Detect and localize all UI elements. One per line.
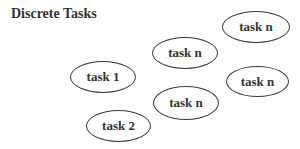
task-label: task n bbox=[168, 45, 202, 61]
task-label: task n bbox=[239, 19, 273, 35]
task-node: task 1 bbox=[70, 61, 136, 93]
task-node: task 2 bbox=[86, 110, 151, 142]
task-label: task n bbox=[169, 95, 203, 111]
task-label: task 2 bbox=[102, 118, 135, 134]
task-node: task n bbox=[153, 86, 219, 120]
diagram-title: Discrete Tasks bbox=[11, 6, 97, 22]
task-label: task n bbox=[241, 74, 275, 90]
task-node: task n bbox=[222, 11, 290, 43]
task-node: task n bbox=[226, 66, 289, 97]
task-node: task n bbox=[152, 37, 218, 69]
task-label: task 1 bbox=[87, 69, 120, 85]
